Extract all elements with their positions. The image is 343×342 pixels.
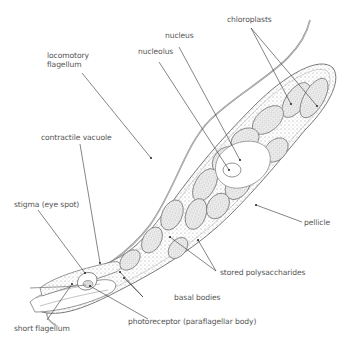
euglena-diagram: locomotory flagellum nucleus nucleolus c… bbox=[0, 0, 343, 342]
label-stigma: stigma (eye spot) bbox=[14, 200, 79, 209]
label-basal-bodies: basal bodies bbox=[174, 293, 220, 302]
label-short-flagellum: short flagellum bbox=[14, 324, 70, 333]
label-contractile-vacuole: contractile vacuole bbox=[41, 133, 112, 142]
photoreceptor bbox=[83, 281, 93, 288]
label-nucleolus: nucleolus bbox=[138, 47, 173, 56]
label-locomotory-flagellum: locomotory flagellum bbox=[47, 51, 89, 69]
label-stored-polysaccharides: stored polysaccharides bbox=[220, 268, 305, 277]
label-pellicle: pellicle bbox=[304, 218, 330, 227]
label-nucleus: nucleus bbox=[165, 31, 194, 40]
label-chloroplasts: chloroplasts bbox=[227, 15, 272, 24]
label-photoreceptor: photoreceptor (paraflagellar body) bbox=[128, 317, 256, 326]
